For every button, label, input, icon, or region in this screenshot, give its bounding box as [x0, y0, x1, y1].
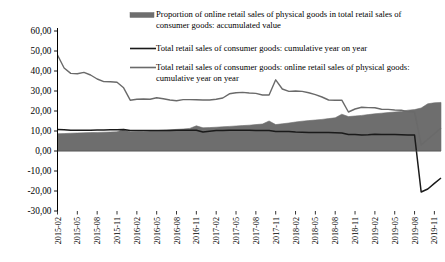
x-axis-tick-label: 2016-05 — [153, 217, 162, 244]
legend-swatch-area-icon — [130, 13, 154, 18]
x-axis-tick-label: 2017-11 — [272, 217, 281, 244]
y-axis-tick-label: 10,00 — [31, 126, 52, 136]
x-axis-tick-label: 2017-02 — [212, 217, 221, 244]
chart-legend: Proportion of online retail sales of phy… — [130, 9, 410, 83]
x-axis-tick-label: 2018-05 — [311, 217, 320, 244]
x-axis-tick-labels: 2015-022015-052015-082015-112016-022016-… — [54, 211, 440, 244]
x-axis-tick-label: 2016-08 — [173, 217, 182, 244]
x-axis-tick-label: 2015-11 — [113, 217, 122, 244]
y-axis-tick-label: 30,00 — [31, 86, 52, 96]
y-axis-tick-label: 50,00 — [31, 46, 52, 56]
chart-canvas: -30,00-20,00-10,000,0010,0020,0030,0040,… — [0, 0, 445, 262]
y-axis-tick-label: 60,00 — [31, 26, 52, 36]
legend-label: Proportion of online retail sales of phy… — [156, 9, 401, 19]
x-axis-tick-label: 2015-05 — [73, 217, 82, 244]
x-axis-tick-label: 2019-08 — [411, 217, 420, 244]
x-axis-tick-label: 2019-11 — [430, 217, 439, 244]
y-axis-tick-label: -30,00 — [27, 206, 51, 216]
y-axis-tick-label: 0,00 — [35, 146, 52, 156]
y-axis-tick-label: 20,00 — [31, 106, 52, 116]
x-axis-tick-label: 2017-05 — [232, 217, 241, 244]
legend-label: Total retail sales of consumer goods: cu… — [156, 43, 367, 53]
y-axis-tick-label: -20,00 — [27, 186, 51, 196]
x-axis-tick-label: 2015-08 — [93, 217, 102, 244]
x-axis-tick-label: 2016-11 — [192, 217, 201, 244]
x-axis-tick-label: 2015-02 — [54, 217, 63, 244]
legend-label-continued: cumulative year on year — [156, 73, 239, 83]
x-axis-tick-label: 2018-02 — [292, 217, 301, 244]
legend-label-continued: consumer goods: accumulated value — [156, 20, 281, 30]
x-axis-tick-label: 2018-08 — [331, 217, 340, 244]
x-axis-tick-label: 2019-02 — [371, 217, 380, 244]
y-axis-tick-labels: -30,00-20,00-10,000,0010,0020,0030,0040,… — [27, 26, 57, 216]
y-axis-tick-label: -10,00 — [27, 166, 51, 176]
chart-container: -30,00-20,00-10,000,0010,0020,0030,0040,… — [0, 0, 445, 262]
legend-label: Total retail sales of consumer goods: on… — [156, 62, 410, 72]
x-axis-tick-label: 2019-05 — [391, 217, 400, 244]
y-axis-tick-label: 40,00 — [31, 66, 52, 76]
x-axis-tick-label: 2017-08 — [252, 217, 261, 244]
x-axis-tick-label: 2016-02 — [133, 217, 142, 244]
x-axis-tick-label: 2018-11 — [351, 217, 360, 244]
